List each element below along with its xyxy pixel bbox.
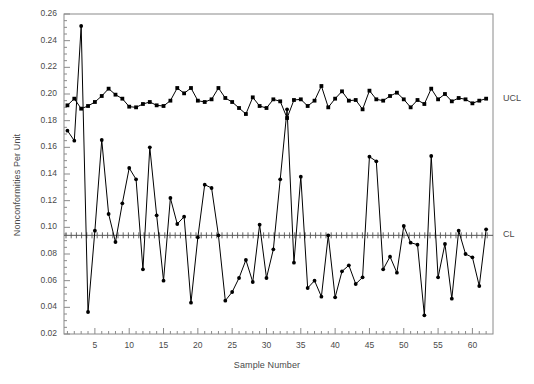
y-tick-label: 0.18 <box>27 115 57 125</box>
cl-label: CL <box>503 229 515 239</box>
series-data <box>66 24 489 317</box>
x-tick-label: 5 <box>80 340 110 350</box>
y-tick-label: 0.02 <box>27 328 57 338</box>
x-axis-ticks <box>67 328 486 334</box>
x-tick-label: 35 <box>286 340 316 350</box>
x-tick-label: 30 <box>251 340 281 350</box>
series-ucl <box>66 84 489 120</box>
x-tick-label: 10 <box>114 340 144 350</box>
x-tick-label: 50 <box>389 340 419 350</box>
center-line <box>64 232 493 238</box>
y-tick-label: 0.24 <box>27 35 57 45</box>
y-axis-ticks <box>64 14 70 334</box>
x-tick-label: 45 <box>354 340 384 350</box>
x-tick-label: 40 <box>320 340 350 350</box>
y-tick-label: 0.16 <box>27 141 57 151</box>
y-tick-label: 0.10 <box>27 221 57 231</box>
control-chart-figure: Nonconformities Per Unit Sample Number U… <box>0 0 534 384</box>
y-tick-label: 0.14 <box>27 168 57 178</box>
y-tick-label: 0.22 <box>27 61 57 71</box>
x-tick-label: 60 <box>457 340 487 350</box>
y-tick-label: 0.08 <box>27 248 57 258</box>
x-tick-label: 55 <box>423 340 453 350</box>
y-axis-title: Nonconformities Per Unit <box>12 115 22 255</box>
x-axis-title: Sample Number <box>202 360 332 370</box>
y-tick-label: 0.12 <box>27 195 57 205</box>
x-tick-label: 20 <box>183 340 213 350</box>
chart-canvas <box>0 0 534 384</box>
x-tick-label: 15 <box>149 340 179 350</box>
ucl-label: UCL <box>503 93 521 103</box>
y-tick-label: 0.04 <box>27 301 57 311</box>
y-tick-label: 0.20 <box>27 88 57 98</box>
data-series-group <box>66 24 489 317</box>
y-tick-label: 0.06 <box>27 275 57 285</box>
y-tick-label: 0.26 <box>27 8 57 18</box>
x-tick-label: 25 <box>217 340 247 350</box>
